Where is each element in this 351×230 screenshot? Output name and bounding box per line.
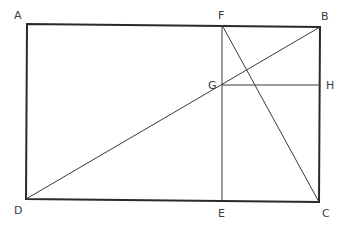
label-f: F xyxy=(218,9,224,22)
label-g: G xyxy=(208,79,217,92)
segment-fc xyxy=(222,25,319,202)
label-e: E xyxy=(218,207,225,220)
rectangle-diagram: A B C D E F G H xyxy=(0,0,351,230)
label-b: B xyxy=(321,10,329,23)
diagonal-db xyxy=(26,27,320,199)
label-h: H xyxy=(326,79,334,92)
label-c: C xyxy=(322,207,330,220)
label-d: D xyxy=(14,204,22,217)
label-a: A xyxy=(14,9,22,22)
